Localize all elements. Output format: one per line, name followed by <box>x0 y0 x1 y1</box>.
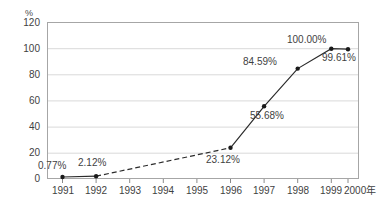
plot-canvas <box>0 0 386 211</box>
data-label-1998: 84.59% <box>243 56 277 67</box>
x-tick-label-1994: 1994 <box>144 185 182 196</box>
data-label-1997: 55.68% <box>250 110 284 121</box>
line-chart: % 120 100 80 60 40 20 0 <box>0 0 386 211</box>
data-label-1996: 23.12% <box>206 154 240 165</box>
data-point-1992 <box>94 174 98 178</box>
data-point-2000 <box>346 47 350 51</box>
data-point-1997 <box>262 104 266 108</box>
data-point-1999 <box>329 47 333 51</box>
x-tick-label-1997: 1997 <box>245 185 283 196</box>
x-tick-label-2000: 2000年 <box>344 185 386 196</box>
data-label-1992: 2.12% <box>78 157 106 168</box>
data-label-1999: 100.00% <box>287 34 326 45</box>
data-point-1996 <box>228 146 232 150</box>
x-tick-label-1995: 1995 <box>178 185 216 196</box>
series-segment-solid-early <box>63 176 97 177</box>
x-tick-label-1992: 1992 <box>77 185 115 196</box>
data-label-2000: 99.61% <box>322 52 356 63</box>
data-point-1991 <box>60 175 64 179</box>
data-point-1998 <box>296 66 300 70</box>
data-label-1991: 0.77% <box>38 160 66 171</box>
